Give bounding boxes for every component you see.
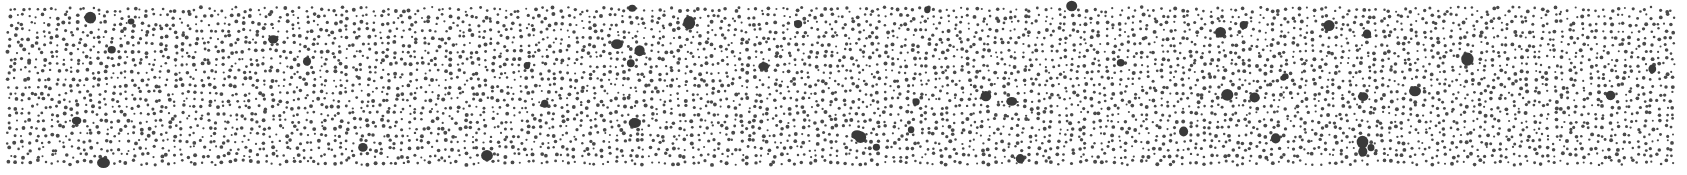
background — [0, 0, 1687, 175]
dot-texture — [0, 0, 1687, 175]
